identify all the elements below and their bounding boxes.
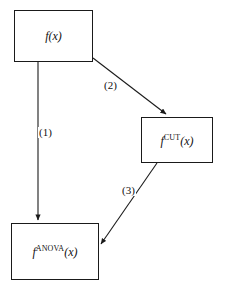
node-function-f-anova: fANOVA(x) <box>11 223 99 280</box>
node-fcut-argument: (x) <box>180 134 193 148</box>
node-function-f: f(x) <box>14 10 93 62</box>
node-function-f-cut: fCUT(x) <box>141 117 213 163</box>
node-function-f-anova-label: fANOVA(x) <box>32 245 77 258</box>
edge-label-3: (3) <box>121 185 136 196</box>
edge-label-1: (1) <box>38 127 53 138</box>
node-fanova-argument: (x) <box>64 245 77 259</box>
node-function-f-label: f(x) <box>45 30 62 42</box>
node-fanova-superscript: ANOVA <box>36 244 64 253</box>
node-fx-argument: (x) <box>49 29 62 43</box>
edge-label-2: (2) <box>103 80 118 91</box>
node-function-f-cut-label: fCUT(x) <box>161 134 194 147</box>
edge-3-line <box>101 163 157 244</box>
node-fcut-superscript: CUT <box>164 133 180 142</box>
diagram-canvas: f(x) fCUT(x) fANOVA(x) (1) (2) (3) <box>0 0 229 291</box>
